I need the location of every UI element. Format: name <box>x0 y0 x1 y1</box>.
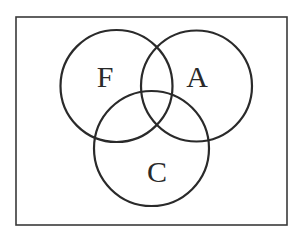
venn-diagram: F A C <box>0 0 293 226</box>
set-circle-c <box>94 91 209 206</box>
set-label-f: F <box>97 60 114 93</box>
universe-rectangle <box>16 17 287 225</box>
set-label-a: A <box>186 60 208 93</box>
set-label-c: C <box>147 155 167 188</box>
